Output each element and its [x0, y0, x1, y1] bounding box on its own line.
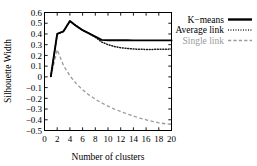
- legend-label: K−means: [188, 15, 225, 25]
- legend-label: Single link: [183, 36, 225, 46]
- y-tick-label: 0.5: [31, 18, 43, 28]
- x-tick-label: 14: [129, 134, 139, 144]
- y-tick-label: −0.1: [26, 83, 42, 93]
- x-tick-label: 20: [167, 134, 177, 144]
- x-axis-tick-labels: 02468101214161820: [42, 134, 176, 144]
- series-line: [51, 50, 172, 125]
- x-tick-label: 10: [104, 134, 114, 144]
- y-tick-label: −0.3: [26, 104, 43, 114]
- silhouette-width-chart: 0.60.50.40.30.20.10−0.1−0.2−0.3−0.4−0.5 …: [0, 0, 257, 166]
- series-line: [51, 21, 172, 76]
- y-tick-label: 0.6: [31, 8, 43, 18]
- y-tick-label: 0.1: [31, 61, 42, 71]
- legend-label: Average link: [175, 25, 224, 35]
- x-axis-title: Number of clusters: [72, 152, 145, 162]
- x-tick-label: 8: [93, 134, 98, 144]
- y-tick-label: −0.4: [26, 115, 43, 125]
- y-tick-label: −0.5: [26, 126, 43, 136]
- x-tick-label: 18: [154, 134, 164, 144]
- y-tick-label: −0.2: [26, 94, 42, 104]
- x-tick-label: 16: [142, 134, 152, 144]
- chart-canvas: 0.60.50.40.30.20.10−0.1−0.2−0.3−0.4−0.5 …: [0, 0, 257, 166]
- x-tick-label: 12: [116, 134, 125, 144]
- x-tick-label: 4: [68, 134, 73, 144]
- y-axis-tick-labels: 0.60.50.40.30.20.10−0.1−0.2−0.3−0.4−0.5: [26, 8, 43, 136]
- y-axis-title: Silhouette Width: [3, 39, 13, 103]
- chart-legend: K−meansAverage linkSingle link: [175, 15, 252, 46]
- y-tick-label: 0: [38, 72, 43, 82]
- y-tick-label: 0.4: [31, 29, 43, 39]
- x-tick-label: 6: [80, 134, 85, 144]
- x-tick-label: 2: [55, 134, 60, 144]
- x-tick-label: 0: [42, 134, 47, 144]
- y-tick-label: 0.3: [31, 40, 43, 50]
- y-tick-label: 0.2: [31, 51, 42, 61]
- series-line: [51, 21, 172, 76]
- data-series-group: [51, 21, 172, 124]
